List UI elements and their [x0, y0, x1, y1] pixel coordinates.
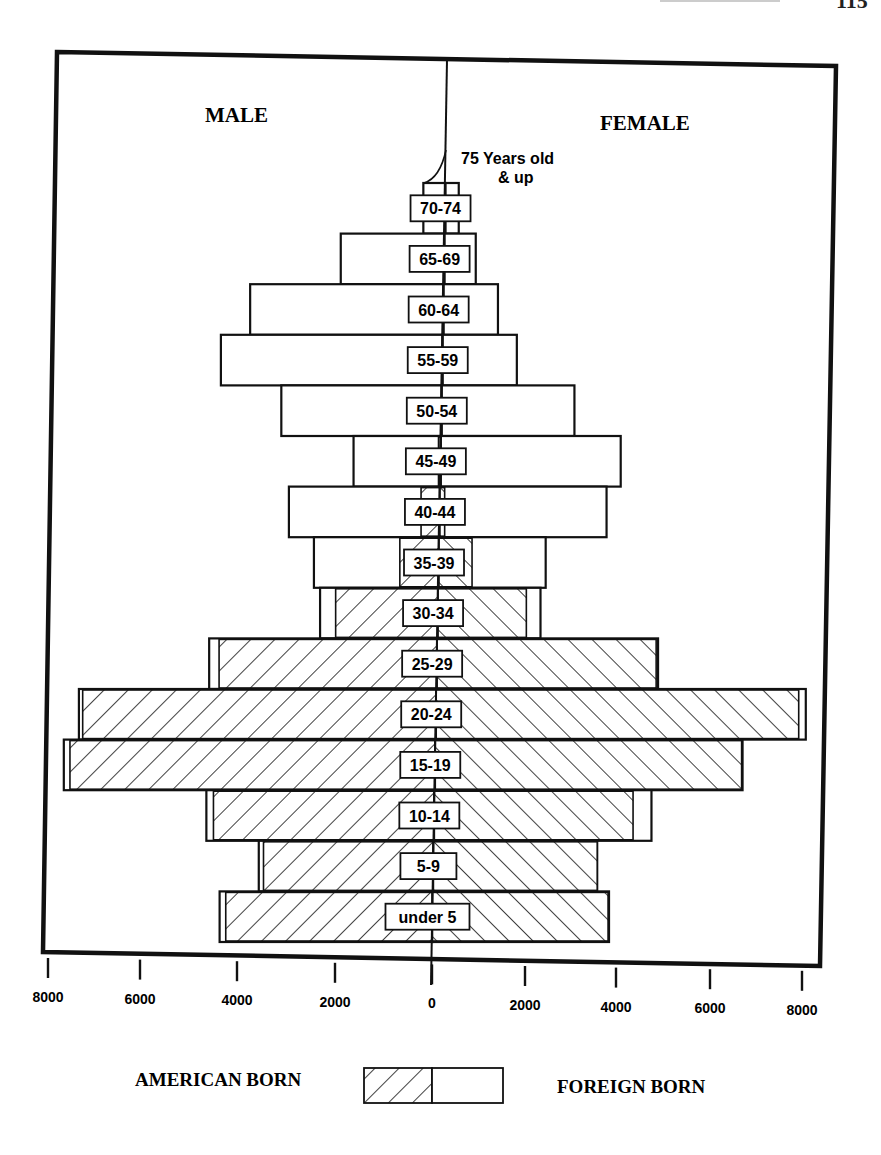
age-label-text: 40-44: [414, 504, 455, 521]
annotation-line2: & up: [498, 169, 534, 186]
age-label-text: 15-19: [410, 757, 451, 774]
age-label-text: 10-14: [409, 808, 450, 825]
female-american-born-bar: [437, 639, 656, 688]
age-label-text: 70-74: [420, 200, 461, 217]
legend-american-born-label: AMERICAN BORN: [135, 1069, 302, 1090]
age-label-text: 5-9: [417, 858, 440, 875]
x-tick-label: 6000: [124, 991, 155, 1007]
x-tick-label: 4000: [600, 999, 631, 1015]
age-label-text: 20-24: [411, 706, 452, 723]
age-label: 70-74: [411, 195, 471, 221]
age-label-text: 60-64: [418, 302, 459, 319]
age-label: 30-34: [403, 600, 463, 626]
age-label: 45-49: [406, 448, 466, 474]
age-label: 5-9: [400, 853, 456, 879]
legend-foreign-born-label: FOREIGN BORN: [557, 1076, 706, 1097]
legend-foreign-born-swatch: [432, 1068, 503, 1103]
male-american-born-bar: [83, 690, 437, 739]
age-label-text: 55-59: [417, 352, 458, 369]
x-tick-label: 4000: [221, 992, 252, 1008]
age-group-row: [221, 335, 517, 386]
x-tick-label: 2000: [319, 994, 350, 1010]
legend: AMERICAN BORN FOREIGN BORN: [135, 1068, 706, 1103]
female-american-born-bar: [435, 741, 741, 790]
age-label: 25-29: [402, 651, 462, 677]
age-label-text: 50-54: [416, 403, 457, 420]
male-american-born-bar: [70, 741, 435, 790]
age-label-text: 30-34: [413, 605, 454, 622]
x-axis: 800060004000200002000400060008000: [32, 958, 817, 1018]
age-label: 20-24: [401, 701, 461, 727]
age-label-text: 65-69: [419, 251, 460, 268]
legend-american-born-swatch: [364, 1068, 432, 1103]
age-label: 10-14: [399, 803, 459, 829]
female-american-born-bar: [434, 791, 633, 840]
age-label: 60-64: [409, 297, 469, 323]
annotation-leader-curve: [424, 150, 446, 183]
age-label: 55-59: [408, 347, 468, 373]
age-label: 65-69: [410, 246, 470, 272]
age-label: 15-19: [400, 752, 460, 778]
x-tick-label: 8000: [786, 1002, 817, 1018]
age-label: under 5: [385, 904, 469, 930]
female-american-born-bar: [433, 842, 597, 891]
annotation-line1: 75 Years old: [461, 150, 554, 167]
female-american-born-bar: [436, 690, 798, 739]
female-foreign-born-bar: [441, 436, 621, 487]
age-label: 50-54: [407, 398, 467, 424]
x-tick-label: 6000: [694, 1000, 725, 1016]
age-label-text: 45-49: [415, 453, 456, 470]
age-label-text: 25-29: [412, 656, 453, 673]
x-tick-label: 0: [428, 995, 436, 1011]
population-pyramid-chart: 70-7465-6960-6455-5950-5445-4940-4435-39…: [0, 0, 881, 1155]
age-group-row: [354, 436, 621, 487]
female-label: FEMALE: [600, 111, 690, 135]
x-tick-label: 8000: [32, 989, 63, 1005]
male-label: MALE: [205, 103, 268, 127]
age-label: 35-39: [404, 550, 464, 576]
age-label-text: under 5: [399, 909, 457, 926]
age-label: 40-44: [405, 499, 465, 525]
age-label-text: 35-39: [414, 555, 455, 572]
x-tick-label: 2000: [509, 997, 540, 1013]
